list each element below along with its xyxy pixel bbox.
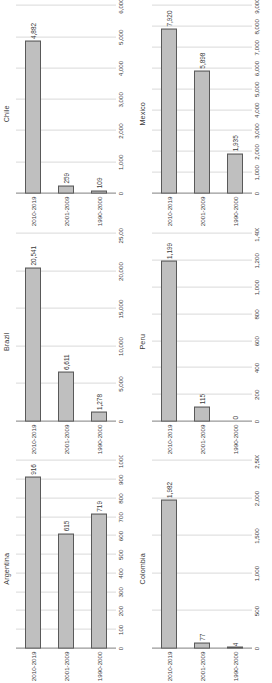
x-tick-label: 1,000 (252, 566, 259, 581)
x-tick-label: 200 (117, 606, 124, 616)
chart-chile: Chile1990-20002001-20092010-20191092594,… (0, 0, 136, 228)
bar-series: 1092594,882 (16, 6, 116, 194)
bar-value-label: 916 (29, 464, 36, 475)
bar (160, 29, 176, 194)
bar-value-label: 0 (231, 416, 238, 420)
bar-series: 4771,982 (152, 461, 252, 649)
plot-area: 719615916 (16, 461, 116, 649)
x-tick-label: 1,400 (252, 228, 259, 242)
value-axis: 01,0002,0003,0004,0005,0006,0007,0008,00… (251, 6, 271, 194)
x-tick-label: 800 (252, 309, 259, 319)
plot-area: 1,9355,8987,920 (152, 6, 252, 194)
chart-panel-colombia: Colombia1990-20002001-20092010-20194771,… (136, 455, 272, 683)
bar-row: 916 (25, 461, 41, 649)
bar-value-label: 1,935 (231, 135, 238, 151)
x-tick-label: 300 (117, 587, 124, 597)
bar-row: 6,611 (58, 234, 74, 422)
x-tick-label: 20,000 (117, 262, 124, 281)
bar (160, 261, 176, 422)
chart-title: Peru (138, 228, 147, 456)
chart-panel-peru: Peru1990-20002001-20092010-201901151,199… (136, 228, 272, 456)
category-label: 2010-2019 (29, 652, 36, 682)
chart-title: Chile (2, 0, 11, 228)
chart-mexico: Mexico1990-20002001-20092010-20191,9355,… (136, 0, 272, 228)
bar-row: 115 (193, 234, 209, 422)
bar-series: 01151,199 (152, 234, 252, 422)
category-label: 1990-2000 (231, 424, 238, 454)
x-tick-label: 1,200 (252, 253, 259, 268)
bar-row: 259 (58, 6, 74, 194)
bar (91, 190, 107, 193)
bar-row: 5,898 (193, 6, 209, 194)
category-label: 2010-2019 (165, 424, 172, 454)
chart-title: Brazil (2, 228, 11, 456)
x-tick-label: 5,000 (117, 30, 124, 45)
x-tick-label: 1,500 (252, 528, 259, 543)
x-tick-label: 0 (252, 419, 259, 422)
value-axis: 01,0002,0003,0004,0005,0006,000 (116, 6, 136, 194)
x-tick-label: 6,000 (117, 0, 124, 14)
chart-panel-mexico: Mexico1990-20002001-20092010-20191,9355,… (136, 0, 272, 228)
category-axis: 1990-20002001-20092010-2019 (16, 649, 116, 683)
bar-value-label: 20,541 (29, 246, 36, 266)
category-label: 2001-2009 (62, 424, 69, 454)
x-tick-label: 600 (252, 336, 259, 346)
bar-row: 1,278 (91, 234, 107, 422)
bar-value-label: 115 (198, 394, 205, 404)
x-tick-label: 0 (252, 647, 259, 650)
chart-panel-chile: Chile1990-20002001-20092010-20191092594,… (0, 0, 136, 228)
bar (91, 514, 107, 649)
category-axis: 1990-20002001-20092010-2019 (16, 194, 116, 228)
chart-peru: Peru1990-20002001-20092010-201901151,199… (136, 228, 272, 456)
bar-value-label: 719 (95, 501, 102, 512)
x-tick-label: 800 (117, 494, 124, 504)
bar (58, 533, 74, 648)
bar-value-label: 6,611 (62, 354, 69, 370)
bar-value-label: 615 (62, 521, 69, 532)
category-label: 1990-2000 (231, 652, 238, 682)
bar (226, 153, 242, 193)
x-tick-label: 10,000 (117, 337, 124, 356)
x-tick-label: 0 (252, 192, 259, 195)
x-tick-label: 1,000 (117, 155, 124, 170)
category-axis: 1990-20002001-20092010-2019 (16, 421, 116, 455)
chart-brazil: Brazil1990-20002001-20092010-20191,2786,… (0, 228, 136, 456)
chart-argentina: Argentina1990-20002001-20092010-20197196… (0, 455, 136, 683)
bar-row: 77 (193, 461, 209, 649)
x-tick-label: 4,000 (252, 102, 259, 117)
category-label: 1990-2000 (95, 652, 102, 682)
x-tick-label: 400 (117, 569, 124, 579)
category-label: 2001-2009 (198, 652, 205, 682)
x-tick-label: 5,000 (252, 82, 259, 97)
bar (58, 186, 74, 194)
x-tick-label: 3,000 (117, 92, 124, 107)
bar (160, 500, 176, 649)
x-tick-label: 15,000 (117, 299, 124, 318)
bar-row: 1,935 (226, 6, 242, 194)
category-label: 2001-2009 (198, 197, 205, 227)
bar-row: 4,882 (25, 6, 41, 194)
chart-sheet: Chile1990-20002001-20092010-20191092594,… (0, 0, 271, 683)
bar (226, 647, 242, 649)
bar-row: 7,920 (160, 6, 176, 194)
category-label: 1990-2000 (95, 424, 102, 454)
x-tick-label: 4,000 (117, 61, 124, 76)
bar (25, 41, 41, 194)
chart-title: Argentina (2, 455, 11, 683)
bar (193, 406, 209, 421)
x-tick-label: 900 (117, 475, 124, 485)
x-tick-label: 2,000 (252, 491, 259, 506)
x-tick-label: 200 (252, 389, 259, 399)
bar-row: 615 (58, 461, 74, 649)
value-axis: 05,00010,00015,00020,00025,000 (116, 234, 136, 422)
x-tick-label: 1000 (117, 455, 124, 468)
x-tick-label: 3,000 (252, 123, 259, 138)
bar-value-label: 7,920 (165, 11, 172, 27)
x-tick-label: 7,000 (252, 40, 259, 55)
bar-row: 1,982 (160, 461, 176, 649)
bar (193, 71, 209, 194)
bar (58, 372, 74, 422)
category-axis: 1990-20002001-20092010-2019 (152, 649, 252, 683)
category-label: 2010-2019 (29, 197, 36, 227)
x-tick-label: 8,000 (252, 19, 259, 34)
